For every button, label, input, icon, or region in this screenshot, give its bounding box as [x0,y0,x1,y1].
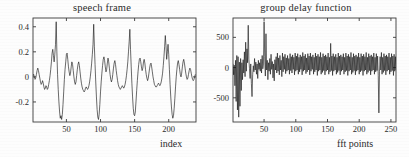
x-tick-label: 100 [289,124,302,134]
x-axis-label-fft-points: fft points [337,138,373,149]
y-tick-label: 0.4 [18,22,29,32]
data-trace [33,22,195,120]
x-tick-label: 200 [353,124,366,134]
x-tick-label: 50 [260,124,269,134]
y-tick-label: -0.2 [16,97,29,107]
y-tick-label: 0.2 [18,47,29,57]
x-tick-label: 50 [62,124,71,134]
y-tick-label: -500 [213,93,229,103]
x-tick-label: 150 [321,124,334,134]
plot-area-group-delay: 50100150200250-5000500 [204,0,408,157]
x-tick-label: 250 [385,124,398,134]
chart-panel-group-delay: group delay function 50100150200250-5000… [204,0,408,157]
plot-area-speech-frame: 50100150200-0.200.20.4 [0,0,204,157]
x-axis-label-index: index [160,138,182,149]
chart-panel-speech-frame: speech frame 50100150200-0.200.20.4 [0,0,204,157]
data-trace [233,22,396,118]
y-tick-label: 0 [225,63,229,73]
figure-container: speech frame 50100150200-0.200.20.4 inde… [0,0,409,157]
y-tick-label: 0 [25,72,29,82]
x-tick-label: 100 [94,124,107,134]
y-tick-label: 500 [216,32,229,42]
x-tick-label: 200 [162,124,175,134]
x-tick-label: 150 [128,124,141,134]
